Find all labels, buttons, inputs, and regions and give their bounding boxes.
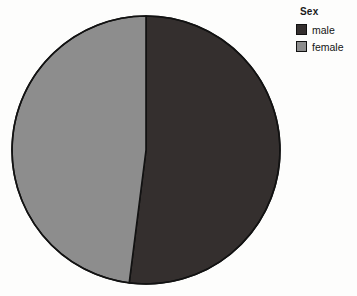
pie-chart-plot-area	[11, 11, 287, 289]
pie-slice-male[interactable]	[129, 16, 280, 284]
legend-label-female: female	[312, 41, 344, 53]
legend-item-female[interactable]: female	[296, 40, 357, 53]
square-swatch-icon-female	[296, 41, 307, 52]
pie-slice-female[interactable]	[12, 16, 146, 283]
pie-chart-figure: Sex male female	[0, 0, 357, 296]
pie-chart-svg	[11, 11, 287, 289]
legend-label-male: male	[312, 24, 335, 36]
legend-item-male[interactable]: male	[296, 23, 357, 36]
legend: Sex male female	[296, 6, 357, 57]
square-swatch-icon-male	[296, 24, 307, 35]
legend-title: Sex	[300, 6, 357, 17]
